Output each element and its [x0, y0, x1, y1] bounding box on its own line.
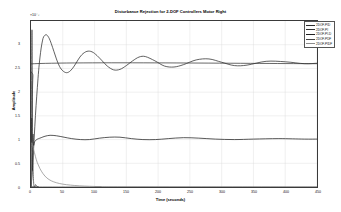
series-line	[31, 63, 317, 187]
y-axis-exponent-label: ×10⁻³	[30, 13, 39, 17]
legend-line-swatch	[306, 43, 315, 44]
plot-canvas	[31, 21, 317, 187]
legend-item[interactable]: 2DOF-PIDF	[306, 41, 332, 46]
series-line	[31, 118, 317, 187]
y-tick-label: 3	[18, 42, 20, 46]
plot-axes	[30, 20, 318, 188]
x-tick-label: 0	[29, 190, 31, 194]
y-tick-label: 2	[18, 90, 20, 94]
x-tick-label: 200	[155, 190, 161, 194]
gridlines	[31, 21, 317, 187]
x-tick-label: 150	[123, 190, 129, 194]
series-line	[31, 35, 317, 187]
y-tick-label: 0.5	[15, 162, 20, 166]
y-axis-label: Amplitude	[11, 78, 16, 124]
legend-line-swatch	[306, 39, 315, 40]
y-tick-label: 1.5	[15, 114, 20, 118]
legend-line-swatch	[306, 29, 315, 30]
legend-label: 2DOF-PIDF	[316, 42, 332, 46]
x-tick-label: 350	[251, 190, 257, 194]
x-tick-label: 250	[187, 190, 193, 194]
y-tick-label: 2.5	[15, 66, 20, 70]
x-axis-label: Time (seconds)	[0, 197, 341, 202]
legend[interactable]: 2DOF-PID2DOF-PI2DOF-PI-D2DOF-PDF2DOF-PID…	[304, 21, 335, 48]
figure-window: Disturbance Rejection for 2-DOF Controll…	[0, 0, 341, 212]
x-tick-label: 300	[219, 190, 225, 194]
y-tick-label: 0	[18, 186, 20, 190]
x-tick-label: 100	[91, 190, 97, 194]
x-tick-label: 400	[283, 190, 289, 194]
x-tick-label: 50	[60, 190, 64, 194]
legend-line-swatch	[306, 25, 315, 26]
chart-title: Disturbance Rejection for 2-DOF Controll…	[0, 9, 341, 15]
legend-line-swatch	[306, 34, 315, 35]
x-tick-label: 450	[315, 190, 321, 194]
y-tick-label: 1	[18, 138, 20, 142]
series-line	[31, 143, 317, 187]
